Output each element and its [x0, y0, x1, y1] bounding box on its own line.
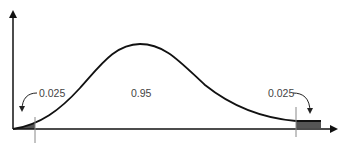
right-tail-label: 0.025 [268, 87, 294, 99]
left-pointer-arrow-icon [22, 93, 37, 110]
right-tail-shading [296, 121, 321, 128]
normal-distribution-diagram [0, 0, 347, 147]
left-tail-label: 0.025 [39, 87, 65, 99]
center-region-label: 0.95 [131, 87, 151, 99]
